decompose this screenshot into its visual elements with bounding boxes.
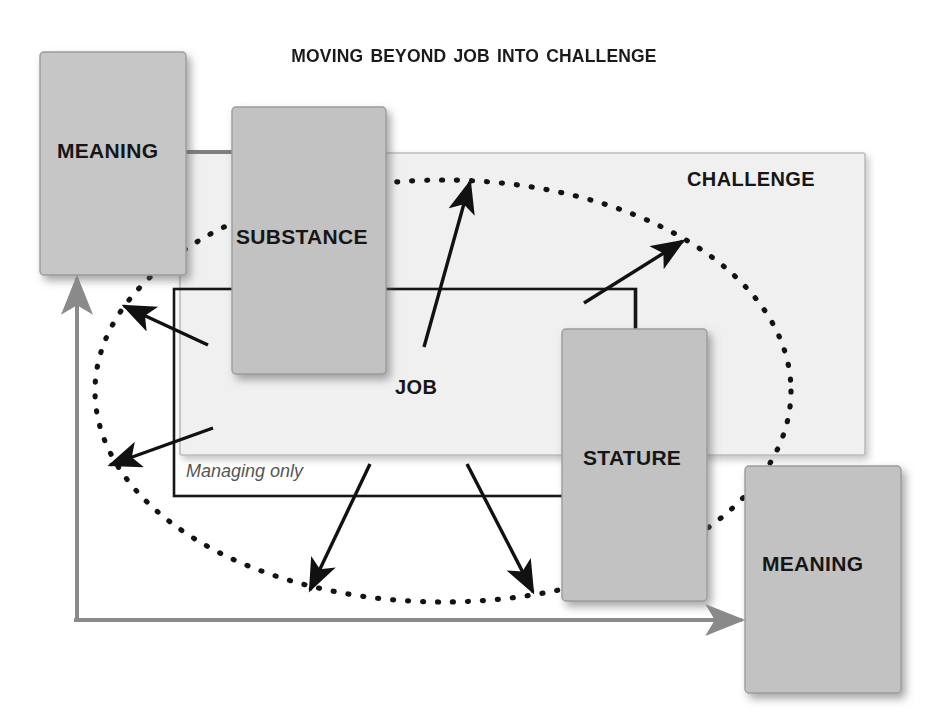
arrow-job-outbottomleft	[310, 464, 370, 590]
page-title: Moving Beyond Job into Challenge	[38, 38, 910, 69]
box-meaning-bottom[interactable]	[745, 466, 901, 693]
diagram-vector-layer	[0, 0, 948, 717]
box-label-meaning-bottom: MEANING	[762, 552, 863, 576]
arrow-job-outbottomright	[467, 464, 533, 592]
box-label-substance: SUBSTANCE	[236, 225, 368, 249]
region-label-job: JOB	[395, 376, 437, 399]
box-meaning-top[interactable]	[40, 52, 186, 275]
box-label-meaning-top: MEANING	[57, 139, 158, 163]
diagram-canvas: Moving Beyond Job into Challenge MEANING…	[0, 0, 948, 717]
note-managing-only: Managing only	[186, 461, 303, 482]
region-label-challenge: CHALLENGE	[687, 168, 815, 191]
box-label-stature: STATURE	[583, 446, 681, 470]
